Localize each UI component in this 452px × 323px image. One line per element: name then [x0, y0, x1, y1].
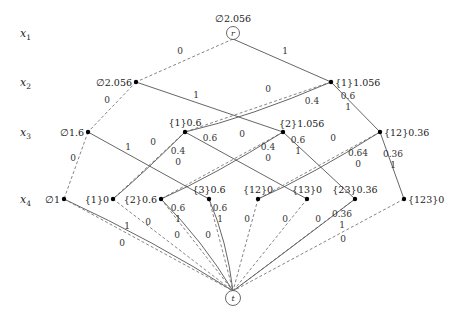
- level-label-3: x3: [20, 126, 31, 141]
- node-label-x3_12: {12}0.36: [384, 127, 429, 138]
- edge-weight-label: 0: [205, 230, 211, 240]
- level-label-4: x4: [20, 193, 31, 208]
- root-node-value: ∅2.056: [215, 13, 251, 24]
- node-label-x3_2: {2}1.056: [279, 118, 324, 129]
- edge-weight-label: 0.4: [171, 146, 186, 156]
- edge-x4_empty-t: [64, 199, 233, 291]
- edge-weight-label: 1: [339, 220, 345, 230]
- node-label-x2_empty: ∅2.056: [96, 77, 132, 88]
- level-label-1: x1: [20, 27, 31, 42]
- node-label-x4_empty: ∅1: [45, 194, 60, 205]
- edge-weight-label: 0: [174, 230, 180, 240]
- node-x4_123: [402, 197, 406, 201]
- edge-weight-label: 0.6: [291, 135, 306, 145]
- edge-weight-label: 0: [177, 46, 183, 56]
- edge-r-x2_empty: [136, 39, 233, 82]
- edge-weight-label: 0.6: [341, 91, 356, 101]
- node-label-x4_2: {2}0.6: [124, 194, 157, 205]
- node-label-x2_1: {1}1.056: [335, 77, 380, 88]
- node-x2_empty: [134, 80, 138, 84]
- node-label-x4_1: {1}0: [85, 194, 109, 205]
- node-x3_1: [183, 130, 187, 134]
- node-x4_3: [207, 197, 211, 201]
- edge-x3_empty-x4_empty: [64, 132, 88, 199]
- edge-x4_13-t: [233, 199, 307, 291]
- edge-weight-label: 1: [125, 142, 131, 152]
- decision-diagram: x1x2x3x4 010100.40.610100.400.600.400.61…: [0, 0, 452, 323]
- edge-weight-label: 1: [124, 221, 130, 231]
- edge-weight-label: 1: [193, 90, 199, 100]
- edge-weight-label: 0: [244, 214, 250, 224]
- edge-weight-label: 0: [265, 84, 271, 94]
- edge-weight-label: 0.6: [213, 203, 228, 213]
- edge-weight-label: 0.36: [383, 149, 403, 159]
- node-x3_12: [378, 130, 382, 134]
- edge-weight-label: 0.4: [305, 96, 320, 106]
- edge-x2_1-x3_12: [331, 82, 380, 132]
- node-x4_2: [159, 197, 163, 201]
- node-label-x4_123: {123}0: [408, 194, 444, 205]
- edge-x4_12-t: [233, 199, 258, 291]
- edge-weight-label: 1: [390, 160, 396, 170]
- edge-weight-label: 0: [175, 157, 181, 167]
- edge-weight-label: 1: [345, 102, 351, 112]
- node-label-x4_12: {12}0: [243, 184, 273, 195]
- edge-weight-label: 0.6: [203, 133, 218, 143]
- node-x3_empty: [86, 130, 90, 134]
- node-x3_2: [281, 130, 285, 134]
- level-label-2: x2: [20, 76, 31, 91]
- edge-weight-label: 0: [340, 234, 346, 244]
- edge-weight-label: 0: [315, 214, 321, 224]
- node-label-x4_13: {13}0: [292, 184, 322, 195]
- edge-weight-label: 1: [282, 46, 288, 56]
- edge-weight-label: 0.6: [171, 203, 186, 213]
- node-x4_empty: [62, 197, 66, 201]
- node-label-x3_empty: ∅1.6: [60, 127, 84, 138]
- edge-weight-label: 0: [330, 133, 336, 143]
- edge-weight-label: 0: [355, 159, 361, 169]
- edge-weight-label: 0.4: [261, 142, 276, 152]
- node-x4_13: [305, 197, 309, 201]
- edge-x4_123-t: [233, 199, 404, 291]
- level-labels: x1x2x3x4: [20, 27, 31, 208]
- edge-weight-label: 1: [295, 146, 301, 156]
- edge-weight-label: 0: [145, 217, 151, 227]
- node-x4_1: [111, 197, 115, 201]
- node-x4_12: [256, 197, 260, 201]
- edge-x2_empty-x3_2: [136, 82, 283, 132]
- edge-weight-label: 0: [70, 153, 76, 163]
- node-label-x4_3: {3}0.6: [192, 184, 225, 195]
- edge-weight-label: 0: [239, 129, 245, 139]
- edge-weight-label: 0: [150, 137, 156, 147]
- edge-weight-label: 0.36: [332, 209, 352, 219]
- node-label-x4_23: {23}0.36: [332, 184, 377, 195]
- edge-weight-label: 1: [217, 214, 223, 224]
- edge-weight-label: 0: [119, 238, 125, 248]
- edge-weight-label: 1: [175, 214, 181, 224]
- edge-weight-label: 0: [265, 153, 271, 163]
- edge-weight-label: 0.64: [348, 148, 368, 158]
- nodes: r∅2.056t∅2.056{1}1.056∅1.6{1}0.6{2}1.056…: [45, 13, 444, 306]
- node-x2_1: [329, 80, 333, 84]
- edge-x2_empty-x3_empty: [88, 82, 136, 132]
- node-label-x3_1: {1}0.6: [168, 117, 201, 128]
- edge-weight-label: 0: [104, 95, 110, 105]
- node-x4_23: [353, 197, 357, 201]
- edge-weight-label: 0: [282, 214, 288, 224]
